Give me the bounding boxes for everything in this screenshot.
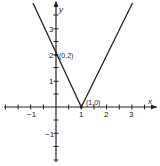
- tick-label-x-1: 1: [79, 110, 84, 119]
- tick-label-x-neg1: −1: [27, 110, 37, 119]
- tick-label-x-3: 3: [129, 110, 134, 119]
- function-curve: [33, 3, 133, 107]
- y-axis-arrow-icon: [54, 1, 59, 7]
- tick-label-y-neg1: −1: [45, 130, 55, 139]
- x-axis-label: x: [147, 97, 153, 106]
- point-0-2-marker: [55, 53, 58, 56]
- y-axis-label: y: [58, 5, 64, 14]
- function-graph: x y −1 1 2 3 3 2 1 −1 (0,2) (1,0): [0, 0, 160, 166]
- point-1-0-marker: [80, 106, 83, 109]
- point-0-2-label: (0,2): [59, 52, 73, 60]
- tick-label-y-2: 2: [49, 51, 54, 60]
- tick-label-y-3: 3: [49, 25, 54, 34]
- tick-label-x-2: 2: [104, 110, 109, 119]
- tick-label-y-1: 1: [49, 77, 54, 86]
- point-1-0-label: (1,0): [86, 99, 100, 107]
